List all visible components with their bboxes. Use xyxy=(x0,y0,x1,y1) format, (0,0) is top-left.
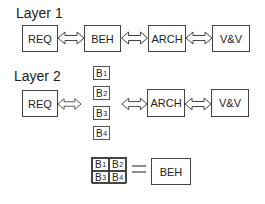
double-arrow-icon xyxy=(57,97,82,111)
double-arrow-icon xyxy=(121,97,148,111)
layer1-req-box: REQ xyxy=(22,25,58,52)
double-arrow-icon xyxy=(185,31,213,45)
grid-cell-b4: B4 xyxy=(109,171,126,184)
sub-block-grid: B1 B2 B3 B4 xyxy=(91,157,127,183)
double-arrow-icon xyxy=(184,97,212,111)
layer-2-label: Layer 2 xyxy=(14,68,61,84)
layer-1-label: Layer 1 xyxy=(16,5,63,21)
grid-cell-b2: B2 xyxy=(109,158,126,171)
sub-block-b4: B4 xyxy=(93,126,110,140)
grid-cell-b3: B3 xyxy=(92,171,109,184)
sub-block-b1: B1 xyxy=(93,66,110,80)
grid-cell-b1: B1 xyxy=(92,158,109,171)
layer2-arch-box: ARCH xyxy=(147,89,185,117)
layer1-vv-box: V&V xyxy=(212,25,250,52)
double-arrow-icon xyxy=(57,31,85,45)
equation-beh-box: BEH xyxy=(151,158,191,185)
double-arrow-icon xyxy=(120,31,149,45)
equals-sign-icon xyxy=(132,163,146,175)
sub-block-b2: B2 xyxy=(93,86,110,100)
layer1-beh-box: BEH xyxy=(84,25,121,52)
layer2-req-box: REQ xyxy=(22,90,58,117)
layer2-vv-box: V&V xyxy=(211,89,249,117)
layer1-arch-box: ARCH xyxy=(148,25,186,52)
sub-block-b3: B3 xyxy=(93,106,110,120)
